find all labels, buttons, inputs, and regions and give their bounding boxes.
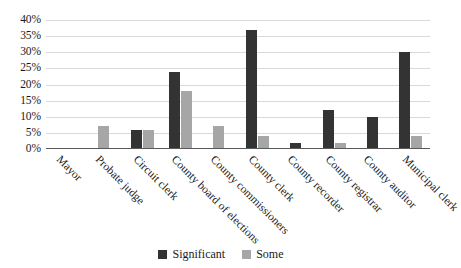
bar-group	[276, 20, 314, 149]
x-axis-tick-label: Municipal clerk	[400, 153, 460, 213]
x-axis-tick-cell: County recorder	[276, 150, 314, 234]
bar-some	[98, 126, 109, 149]
y-axis-tick-label: 15%	[20, 95, 46, 107]
y-axis-tick-label: 0%	[26, 143, 46, 155]
legend-swatch-icon	[158, 250, 167, 259]
legend-item[interactable]: Some	[242, 248, 283, 260]
legend-label: Significant	[172, 248, 225, 260]
x-axis-tick-cell: County clerk	[238, 150, 276, 234]
bar-some	[213, 126, 224, 149]
bar-significant	[323, 110, 334, 149]
x-axis-tick-cell: County board of elections	[161, 150, 199, 234]
x-axis-tick-labels: MayorProbate judgeCircuit clerkCounty bo…	[46, 150, 430, 234]
x-axis-tick-cell: County registrar	[315, 150, 353, 234]
bar-group	[84, 20, 122, 149]
bar-some	[181, 91, 192, 149]
bar-significant	[367, 117, 378, 149]
x-axis-tick-cell: Probate judge	[84, 150, 122, 234]
y-axis-tick-label: 35%	[20, 30, 46, 42]
x-axis-line	[46, 148, 430, 149]
bar-significant	[131, 130, 142, 149]
x-axis-tick-cell: Circuit clerk	[123, 150, 161, 234]
bar-group	[123, 20, 161, 149]
bar-some	[143, 130, 154, 149]
y-axis-tick-label: 40%	[20, 14, 46, 26]
bar-group	[353, 20, 391, 149]
x-axis-tick-cell: County commissioners	[200, 150, 238, 234]
bar-group	[161, 20, 199, 149]
bar-groups	[46, 20, 430, 149]
bar-group	[315, 20, 353, 149]
y-axis-tick-label: 25%	[20, 63, 46, 75]
plot-area: 40%35%30%25%20%15%10%5%0%	[46, 20, 430, 149]
bar-significant	[169, 72, 180, 149]
y-axis-tick-label: 5%	[26, 127, 46, 139]
bar-group	[238, 20, 276, 149]
x-axis-tick-cell: County auditor	[353, 150, 391, 234]
legend-swatch-icon	[242, 250, 251, 259]
x-axis-tick-label: Mayor	[55, 153, 85, 183]
y-axis-tick-label: 30%	[20, 47, 46, 59]
chart-legend: SignificantSome	[0, 248, 442, 260]
bar-group	[200, 20, 238, 149]
x-axis-tick-cell: Municipal clerk	[392, 150, 430, 234]
legend-label: Some	[256, 248, 283, 260]
y-axis-tick-label: 20%	[20, 79, 46, 91]
bar-group	[46, 20, 84, 149]
x-axis-tick-cell: Mayor	[46, 150, 84, 234]
y-axis-tick-label: 10%	[20, 111, 46, 123]
bar-group	[392, 20, 430, 149]
bar-significant	[399, 52, 410, 149]
legend-item[interactable]: Significant	[158, 248, 225, 260]
bar-significant	[246, 30, 257, 149]
